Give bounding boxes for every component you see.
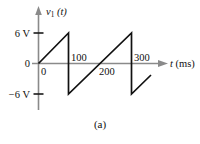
- x-axis-arrowhead: [158, 60, 168, 67]
- y-axis-arrowhead: [35, 6, 42, 15]
- x-tick-label-300: 300: [134, 52, 150, 63]
- x-axis-unit: (ms): [176, 58, 196, 70]
- x-tick-label-200: 200: [99, 66, 115, 77]
- y-tick-label-minus6v: −6 V: [9, 89, 31, 100]
- x-origin-label: 0: [41, 66, 46, 77]
- y-axis-argument: (t): [57, 6, 67, 18]
- x-axis-label: t (ms): [170, 58, 195, 70]
- x-tick-label-100: 100: [71, 52, 87, 63]
- y-tick-label-6v: 6 V: [15, 28, 31, 39]
- figure-caption: (a): [0, 118, 200, 130]
- y-axis: [34, 6, 44, 110]
- y-tick-label-zero: 0: [25, 58, 30, 69]
- y-axis-label: v1 (t): [46, 6, 67, 19]
